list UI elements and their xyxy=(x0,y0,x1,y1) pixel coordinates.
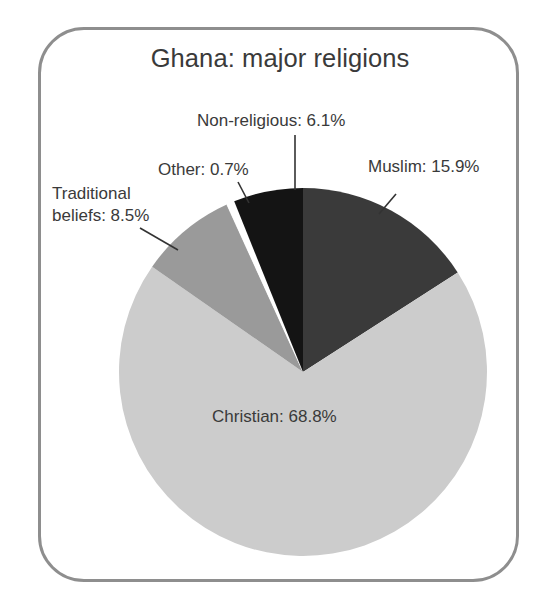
slice-label-traditional-beliefs: Traditional beliefs: 8.5% xyxy=(52,183,182,227)
slice-label-non-religious: Non-religious: 6.1% xyxy=(197,110,345,132)
pie-chart-graphic xyxy=(0,0,560,611)
pie-chart-figure: Ghana: major religions Non-religious: 6.… xyxy=(0,0,560,611)
slice-label-traditional-beliefs-line2: beliefs: 8.5% xyxy=(52,205,182,227)
leader-line-traditional-beliefs xyxy=(140,228,178,250)
slice-label-traditional-beliefs-line1: Traditional xyxy=(52,183,182,205)
slice-label-christian: Christian: 68.8% xyxy=(212,406,337,428)
slice-label-other: Other: 0.7% xyxy=(158,159,249,181)
slice-label-muslim: Muslim: 15.9% xyxy=(368,156,479,178)
pie-slices-group xyxy=(119,188,487,556)
